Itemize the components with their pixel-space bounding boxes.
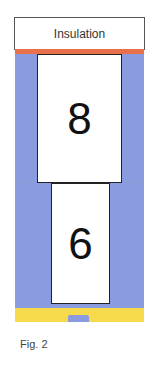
insulation-label: Insulation [54, 27, 105, 41]
lower-block: 6 [51, 183, 110, 304]
upper-block-label: 8 [67, 94, 91, 144]
figure-caption: Fig. 2 [20, 338, 48, 350]
lower-block-label: 6 [68, 219, 92, 269]
insulation-layer: Insulation [14, 17, 145, 50]
upper-block: 8 [37, 54, 122, 183]
base-tab [68, 315, 89, 322]
